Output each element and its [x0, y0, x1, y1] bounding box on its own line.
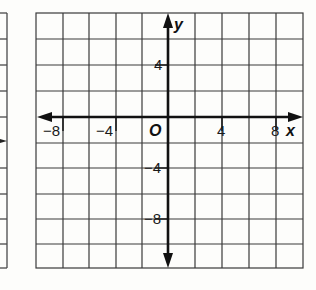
x-tick-label-neg8: −8: [43, 122, 60, 139]
partial-left-arrow: [0, 139, 7, 143]
coordinate-plane: −8 −4 O 4 8 x y 4 −4 −8: [0, 0, 316, 290]
y-tick-label-neg4: −4: [144, 159, 161, 176]
x-axis-right-arrow-icon: [288, 112, 303, 122]
x-tick-label-8: 8: [271, 122, 279, 139]
y-axis-down-arrow-icon: [163, 253, 173, 268]
x-tick-label-neg4: −4: [96, 122, 113, 139]
x-tick-label-4: 4: [217, 122, 225, 139]
y-axis-label: y: [173, 16, 184, 33]
tick-marks: [63, 65, 276, 219]
y-axis-up-arrow-icon: [163, 13, 173, 28]
x-axis: [37, 112, 303, 122]
y-tick-label-neg8: −8: [144, 210, 161, 227]
grid-lines: [36, 13, 303, 268]
y-axis: [163, 13, 173, 268]
x-axis-label: x: [285, 122, 296, 139]
origin-label: O: [149, 122, 162, 139]
y-tick-label-4: 4: [154, 56, 162, 73]
x-axis-left-arrow-icon: [37, 112, 52, 122]
